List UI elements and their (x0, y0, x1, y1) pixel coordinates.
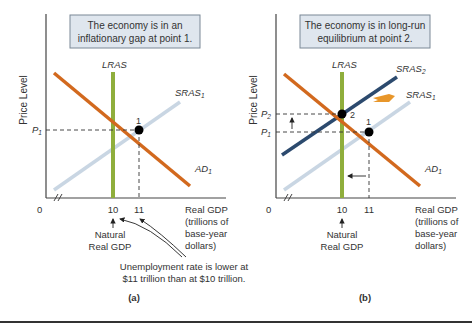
svg-text:(trillions of: (trillions of (185, 216, 229, 227)
natural-label-2: Real GDP (89, 241, 132, 252)
origin-label: 0 (266, 204, 271, 215)
title-line-2: equilibrium at point 2. (317, 33, 412, 44)
point-1 (365, 128, 374, 137)
tick-11: 11 (134, 204, 144, 215)
title-line-1: The economy is in an (87, 20, 182, 31)
panel-b: The economy is in long-run equilibrium a… (248, 14, 459, 303)
point-1 (135, 126, 144, 135)
sras1-label: SRAS1 (175, 87, 205, 99)
svg-text:(trillions of: (trillions of (415, 216, 459, 227)
note-line-1: Unemployment rate is lower at (120, 261, 249, 272)
natural-label-2: Real GDP (321, 241, 364, 252)
ad1-curve (54, 73, 190, 186)
ad1-label: AD1 (194, 163, 212, 175)
tick-10: 10 (337, 204, 348, 215)
origin-label: 0 (37, 204, 42, 215)
shift-left-arrow-icon (373, 94, 395, 102)
point-1-label: 1 (136, 116, 141, 126)
natural-label-1: Natural (327, 229, 358, 240)
svg-text:dollars): dollars) (415, 240, 446, 251)
y-axis-label: Price Level (248, 75, 259, 124)
ad1-curve (284, 74, 420, 186)
p2-label: P2 (261, 108, 271, 120)
figure: The economy is in an inflationary gap at… (0, 0, 472, 324)
caption-a: (a) (128, 292, 140, 303)
sras1-curve (284, 102, 410, 190)
svg-text:base-year: base-year (415, 228, 457, 239)
p1-label: P1 (261, 126, 271, 138)
point-2-label: 2 (350, 110, 355, 120)
point-2 (338, 110, 347, 119)
sras1-label: SRAS1 (406, 89, 436, 101)
svg-text:Real GDP: Real GDP (415, 204, 458, 215)
lras-label: LRAS (332, 59, 357, 70)
note-arrow-11-icon (140, 219, 186, 257)
svg-text:dollars): dollars) (185, 240, 216, 251)
tick-10: 10 (108, 204, 119, 215)
title-line-2: inflationary gap at point 1. (78, 33, 193, 44)
y-axis-label: Price Level (18, 75, 29, 124)
panel-a: The economy is in an inflationary gap at… (18, 14, 249, 303)
svg-text:base-year: base-year (185, 228, 227, 239)
lras-label: LRAS (102, 59, 127, 70)
p1-label: P1 (32, 124, 42, 136)
tick-11: 11 (364, 204, 374, 215)
svg-text:Real GDP: Real GDP (185, 204, 228, 215)
title-line-1: The economy is in long-run (305, 20, 426, 31)
x-axis-label: Real GDP (trillions of base-year dollars… (185, 204, 229, 251)
point-1-label: 1 (366, 117, 371, 127)
caption-b: (b) (359, 292, 371, 303)
x-axis-label: Real GDP (trillions of base-year dollars… (415, 204, 459, 251)
sras1-curve (54, 102, 180, 190)
ad1-label: AD1 (424, 163, 442, 175)
sras2-label: SRAS2 (396, 63, 426, 75)
note-line-2: $11 trillion than at $10 trillion. (123, 273, 246, 284)
natural-label-1: Natural (95, 229, 126, 240)
